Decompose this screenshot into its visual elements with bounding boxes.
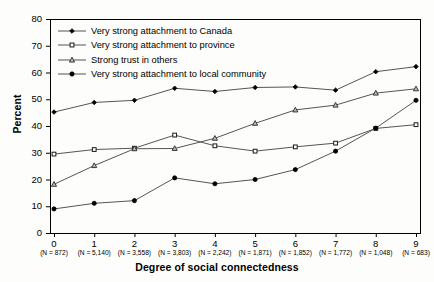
legend-item-label: Strong trust in others (87, 55, 177, 65)
x-tick-label: 7 (316, 238, 356, 249)
series-line-1 (52, 123, 418, 156)
x-tick-label: 6 (275, 238, 315, 249)
data-point-marker-open-square (92, 148, 96, 152)
data-point-marker-open-triangle (253, 121, 258, 126)
data-point-marker-open-triangle (293, 107, 298, 112)
data-point-marker-filled-diamond (253, 85, 258, 90)
data-point-marker-open-triangle (333, 102, 338, 107)
data-point-marker-open-square (293, 145, 297, 149)
data-point-marker-filled-diamond (172, 86, 177, 91)
x-tick-label: 2 (114, 238, 154, 249)
y-tick-label: 50 (16, 93, 42, 104)
data-point-marker-filled-circle (414, 98, 418, 102)
x-tick-label: 8 (356, 238, 396, 249)
x-sample-size-label: (N = 683) (388, 249, 434, 256)
x-tick-label: 9 (396, 238, 434, 249)
legend-marker-icon (57, 25, 87, 37)
data-point-marker-filled-circle (173, 176, 177, 180)
legend-item-label: Very strong attachment to Canada (87, 26, 232, 36)
legend-item-2[interactable]: Strong trust in others (57, 53, 266, 66)
legend-item-1[interactable]: Very strong attachment to province (57, 39, 266, 52)
chart-container: Percent Degree of social connectedness 0… (0, 0, 434, 282)
data-point-marker-open-square (253, 149, 257, 153)
y-tick-label: 40 (16, 120, 42, 131)
data-point-marker-open-triangle (92, 163, 97, 168)
y-axis-title: Percent (11, 74, 23, 154)
data-point-marker-open-triangle (212, 136, 217, 141)
x-tick-label: 0 (34, 238, 74, 249)
legend-item-label: Very strong attachment to local communit… (87, 69, 266, 79)
data-point-marker-open-square (173, 133, 177, 137)
x-tick-label: 5 (235, 238, 275, 249)
legend-item-3[interactable]: Very strong attachment to local communit… (57, 68, 266, 81)
data-point-marker-filled-diamond (132, 98, 137, 103)
data-point-marker-filled-diamond (293, 85, 298, 90)
chart-legend: Very strong attachment to CanadaVery str… (57, 24, 266, 82)
y-tick-label: 10 (16, 200, 42, 211)
data-point-marker-open-triangle (51, 182, 56, 187)
x-tick-label: 3 (155, 238, 195, 249)
data-point-marker-filled-circle (70, 72, 74, 76)
data-point-marker-open-square (334, 141, 338, 145)
data-point-marker-open-square (70, 43, 74, 47)
data-point-marker-open-triangle (373, 90, 378, 95)
data-point-marker-filled-circle (374, 126, 378, 130)
data-point-marker-filled-circle (333, 149, 337, 153)
data-point-marker-filled-diamond (92, 100, 97, 105)
y-tick-label: 60 (16, 67, 42, 78)
data-point-marker-filled-circle (213, 182, 217, 186)
y-tick-label: 0 (16, 227, 42, 238)
y-tick-label: 30 (16, 147, 42, 158)
series-line-3 (52, 98, 418, 211)
y-tick-label: 80 (16, 13, 42, 24)
data-point-marker-filled-circle (253, 177, 257, 181)
data-point-marker-filled-diamond (333, 88, 338, 93)
legend-marker-icon (57, 68, 87, 80)
data-point-marker-filled-diamond (52, 110, 57, 115)
data-point-marker-filled-diamond (414, 64, 419, 69)
legend-marker-icon (57, 54, 87, 66)
legend-marker-icon (57, 39, 87, 51)
y-tick-label: 20 (16, 174, 42, 185)
legend-item-label: Very strong attachment to province (87, 40, 235, 50)
y-tick-label: 70 (16, 40, 42, 51)
data-point-marker-open-triangle (69, 57, 74, 62)
x-axis-title: Degree of social connectedness (0, 261, 434, 273)
data-point-marker-filled-diamond (70, 28, 75, 33)
x-tick-label: 1 (74, 238, 114, 249)
x-tick-label: 4 (195, 238, 235, 249)
data-point-marker-open-triangle (172, 146, 177, 151)
data-point-marker-filled-diamond (213, 89, 218, 94)
legend-item-0[interactable]: Very strong attachment to Canada (57, 24, 266, 37)
data-point-marker-filled-circle (293, 168, 297, 172)
data-point-marker-filled-diamond (374, 69, 379, 74)
data-point-marker-filled-circle (132, 199, 136, 203)
data-point-marker-open-triangle (413, 86, 418, 91)
y-axis-ticks (46, 20, 50, 234)
data-point-marker-filled-circle (92, 201, 96, 205)
data-point-marker-open-square (414, 123, 418, 127)
data-point-marker-open-square (213, 144, 217, 148)
data-point-marker-open-square (52, 152, 56, 156)
data-point-marker-filled-circle (52, 207, 56, 211)
series-line-2 (51, 86, 418, 186)
